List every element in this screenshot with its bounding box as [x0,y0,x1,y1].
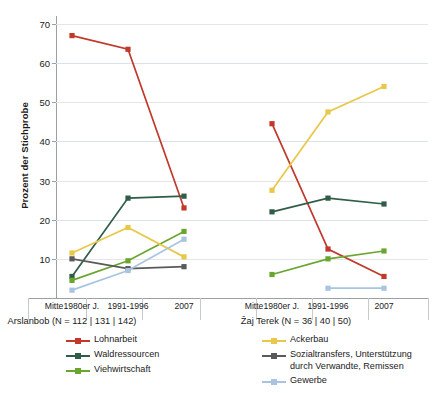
series-line [72,36,184,208]
legend-item[interactable]: Gewerbe [262,375,412,387]
legend-item[interactable]: Ackerbau [262,334,412,346]
series-marker [181,264,186,269]
series-marker [325,196,330,201]
series-marker [181,237,186,242]
legend-item[interactable]: Lohnarbeit [66,334,159,346]
y-tick-label: 70 [28,18,50,29]
x-tick-label: 2007 [144,301,224,311]
chart-figure: Prozent der Stichprobe 10203040506070 Mi… [0,0,435,393]
series-marker [381,248,386,253]
legend-swatch-icon [262,376,286,387]
series-line [72,239,184,290]
legend-label: Lohnarbeit [90,334,137,346]
legend-item[interactable]: Sozialtransfers, Unterstützung durch Ver… [262,349,412,372]
series-marker [69,288,74,293]
series-layer [56,16,428,298]
series-marker [325,246,330,251]
series-marker [381,286,386,291]
legend-label: Gewerbe [286,375,327,387]
series-marker [125,258,130,263]
series-marker [69,278,74,283]
y-tick-label: 50 [28,97,50,108]
series-marker [181,194,186,199]
series-marker [181,205,186,210]
series-line [272,251,384,275]
y-tick-label: 10 [28,253,50,264]
series-svg [56,16,428,298]
series-marker [269,121,274,126]
series-marker [125,196,130,201]
series-line [272,87,384,191]
x-tick-label: 2007 [344,301,424,311]
series-marker [181,254,186,259]
legend-swatch-icon [262,335,286,346]
panel-caption: Žaj Terek (N = 36 | 40 | 50) [206,316,386,326]
legend-swatch-icon [66,335,90,346]
series-line [72,196,184,276]
series-marker [69,250,74,255]
series-marker [125,47,130,52]
series-marker [325,109,330,114]
series-marker [381,201,386,206]
series-marker [125,268,130,273]
y-tick-label: 60 [28,58,50,69]
series-marker [381,84,386,89]
legend-swatch-icon [262,350,286,361]
series-marker [325,256,330,261]
series-marker [381,274,386,279]
legend-label: Waldressourcen [90,349,159,361]
series-marker [269,209,274,214]
y-tick-label: 40 [28,136,50,147]
series-marker [69,256,74,261]
plot-area: 10203040506070 [56,16,428,298]
legend-item[interactable]: Waldressourcen [66,349,159,361]
x-axis-separator [428,298,429,320]
series-marker [69,33,74,38]
y-tick-label: 20 [28,214,50,225]
series-marker [325,286,330,291]
panel-caption: Arslanbob (N = 112 | 131 | 142) [0,316,162,326]
legend-label: Viehwirtschaft [90,364,150,376]
legend-left: LohnarbeitWaldressourcenViehwirtschaft [66,334,159,379]
legend-right: AckerbauSozialtransfers, Unterstützung d… [262,334,412,390]
series-marker [181,229,186,234]
series-marker [269,272,274,277]
legend-label: Ackerbau [286,334,328,346]
legend-swatch-icon [66,365,90,376]
series-marker [125,225,130,230]
series-marker [269,188,274,193]
legend-label: Sozialtransfers, Unterstützung durch Ver… [286,349,412,372]
legend-swatch-icon [66,350,90,361]
legend-item[interactable]: Viehwirtschaft [66,364,159,376]
y-tick-label: 30 [28,175,50,186]
